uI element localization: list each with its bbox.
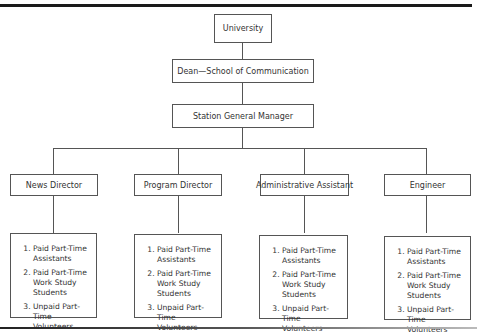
node-station-general-manager: Station General Manager [172, 104, 314, 128]
node-engineer: Engineer [384, 174, 471, 196]
top-rule [0, 4, 472, 7]
node-university: University [214, 14, 272, 43]
staff-list-administrative: Paid Part-Time Assistants Paid Part-Time… [259, 235, 348, 319]
staff-item: Paid Part-Time Assistants [33, 244, 92, 264]
staff-item: Paid Part-Time Work Study Students [33, 268, 92, 298]
connector [426, 148, 427, 174]
staff-item: Paid Part-Time Assistants [157, 245, 217, 265]
node-label: News Director [26, 181, 82, 190]
staff-list-engineer: Paid Part-Time Assistants Paid Part-Time… [384, 236, 471, 320]
connector [304, 148, 305, 174]
staff-item: Paid Part-Time Assistants [282, 246, 343, 266]
bottom-rule [0, 327, 477, 329]
staff-item: Paid Part-Time Work Study Students [407, 271, 466, 301]
node-label: Dean—School of Communication [177, 67, 308, 76]
node-program-director: Program Director [134, 174, 222, 196]
connector [304, 196, 305, 233]
connector-bus [53, 148, 427, 149]
connector [242, 43, 243, 59]
staff-item: Paid Part-Time Assistants [407, 247, 466, 267]
node-dean: Dean—School of Communication [172, 59, 314, 83]
node-news-director: News Director [10, 174, 98, 196]
staff-item: Paid Part-Time Work Study Students [157, 269, 217, 299]
connector [178, 148, 179, 174]
connector [53, 148, 54, 174]
connector [426, 196, 427, 233]
connector [178, 196, 179, 233]
node-label: Station General Manager [193, 112, 293, 121]
connector [53, 196, 54, 233]
staff-list-news: Paid Part-Time Assistants Paid Part-Time… [10, 233, 97, 318]
node-administrative-assistant: Administrative Assistant [260, 174, 349, 196]
node-label: Program Director [144, 181, 212, 190]
node-label: Administrative Assistant [256, 181, 353, 190]
staff-item: Paid Part-Time Work Study Students [282, 270, 343, 300]
connector [242, 83, 243, 104]
node-label: University [223, 24, 263, 33]
staff-list-program: Paid Part-Time Assistants Paid Part-Time… [134, 234, 222, 318]
node-label: Engineer [410, 181, 446, 190]
connector [242, 128, 243, 148]
